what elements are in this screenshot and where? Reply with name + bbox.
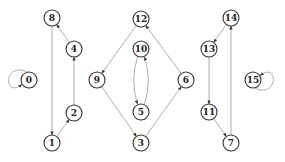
node-9: 9 (89, 72, 105, 88)
node-label: 9 (94, 75, 100, 85)
node-label: 3 (138, 138, 144, 148)
node-label: 1 (49, 138, 55, 148)
node-11: 11 (201, 104, 217, 120)
node-14: 14 (223, 10, 239, 26)
node-label: 6 (183, 75, 189, 85)
edge-4-to-8 (57, 25, 70, 43)
node-label: 14 (225, 13, 238, 23)
node-label: 5 (138, 107, 144, 117)
node-4: 4 (66, 41, 82, 57)
edge-11-to-7 (214, 119, 227, 137)
node-8: 8 (44, 10, 60, 26)
node-label: 10 (135, 44, 148, 54)
node-12: 12 (133, 11, 149, 27)
node-label: 12 (135, 14, 148, 24)
edge-10-to-5 (134, 57, 138, 104)
edge-14-to-13 (214, 25, 227, 43)
node-label: 15 (247, 75, 260, 85)
node-13: 13 (201, 41, 217, 57)
edge-5-to-10 (145, 57, 149, 104)
node-label: 4 (71, 44, 77, 54)
node-label: 8 (49, 13, 55, 23)
graph-canvas: 0123456789101112131415 (0, 0, 285, 162)
edge-1-to-2 (57, 119, 70, 136)
node-label: 2 (71, 108, 77, 118)
node-label: 13 (203, 44, 216, 54)
node-5: 5 (133, 104, 149, 120)
edge-3-to-6 (146, 87, 182, 137)
nodes-layer: 0123456789101112131415 (21, 10, 261, 151)
node-label: 7 (228, 138, 234, 148)
node-10: 10 (133, 41, 149, 57)
edge-6-to-12 (146, 25, 182, 73)
node-15: 15 (245, 72, 261, 88)
node-1: 1 (44, 135, 60, 151)
node-7: 7 (223, 135, 239, 151)
edge-12-to-9 (102, 25, 137, 73)
node-0: 0 (21, 72, 37, 88)
edge-9-to-3 (102, 87, 137, 137)
node-2: 2 (66, 105, 82, 121)
node-6: 6 (178, 72, 194, 88)
node-label: 11 (203, 107, 216, 117)
node-3: 3 (133, 135, 149, 151)
node-label: 0 (26, 75, 32, 85)
